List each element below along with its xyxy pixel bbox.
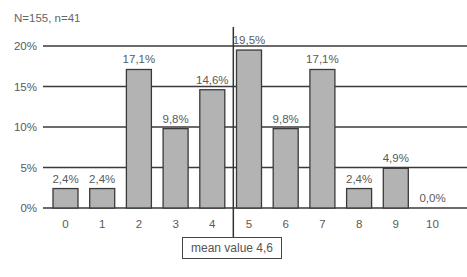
bar-8 — [347, 189, 372, 208]
bar-chart: 0%5%10%15%20%2,4%02,4%117,1%29,8%314,6%4… — [0, 0, 467, 277]
x-tick-label: 10 — [426, 218, 439, 230]
bar-1 — [90, 189, 115, 208]
x-tick-label: 3 — [172, 218, 178, 230]
x-tick-label: 2 — [136, 218, 142, 230]
x-tick-label: 9 — [393, 218, 399, 230]
y-tick-label: 5% — [20, 162, 37, 174]
x-tick-label: 1 — [99, 218, 105, 230]
value-label: 17,1% — [306, 53, 339, 65]
bar-2 — [126, 69, 151, 208]
value-label: 0,0% — [419, 192, 445, 204]
x-tick-label: 4 — [209, 218, 216, 230]
bar-3 — [163, 129, 188, 208]
value-label: 2,4% — [52, 173, 78, 185]
value-label: 17,1% — [123, 53, 156, 65]
x-tick-label: 7 — [319, 218, 325, 230]
value-label: 19,5% — [233, 34, 266, 46]
bar-6 — [273, 129, 298, 208]
y-tick-label: 20% — [14, 40, 37, 52]
x-tick-label: 0 — [62, 218, 68, 230]
y-tick-label: 0% — [20, 202, 37, 214]
bar-5 — [237, 50, 262, 208]
x-tick-label: 8 — [356, 218, 362, 230]
value-label: 14,6% — [196, 74, 229, 86]
value-label: 2,4% — [346, 173, 372, 185]
value-label: 2,4% — [89, 173, 115, 185]
mean-value-label: mean value 4,6 — [182, 237, 282, 259]
value-label: 4,9% — [383, 152, 409, 164]
value-label: 9,8% — [273, 113, 299, 125]
y-tick-label: 15% — [14, 81, 37, 93]
bar-7 — [310, 69, 335, 208]
bar-4 — [200, 90, 225, 208]
x-tick-label: 5 — [246, 218, 252, 230]
y-tick-label: 10% — [14, 121, 37, 133]
bar-0 — [53, 189, 78, 208]
value-label: 9,8% — [162, 113, 188, 125]
x-tick-label: 6 — [282, 218, 288, 230]
bar-9 — [383, 168, 408, 208]
